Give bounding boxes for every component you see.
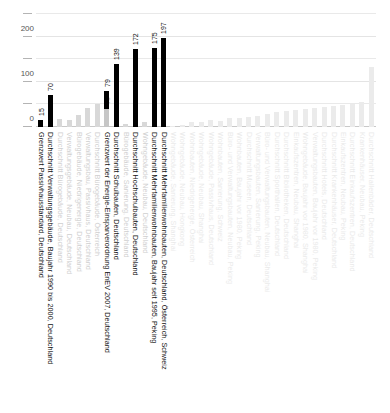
bar-slot[interactable]: [67, 14, 72, 127]
category-label: Verwaltungsbau, Passivhaus, Deutschland: [84, 132, 91, 270]
category-label: Durchschnitt Museen, Deutschland: [245, 132, 252, 245]
category-label: Wohngebäude, Neubau, Shanghai: [198, 132, 205, 244]
tick-mark: [23, 58, 32, 59]
bar-slot[interactable]: [57, 14, 62, 127]
bar[interactable]: [123, 124, 128, 127]
bar-slot[interactable]: [170, 14, 175, 127]
bar-slot[interactable]: [208, 14, 213, 127]
bar-slot[interactable]: [265, 14, 270, 127]
bar[interactable]: [284, 111, 289, 127]
bar-slot[interactable]: 4079: [104, 14, 109, 127]
bar-slot[interactable]: 139: [114, 14, 119, 127]
category-label: Durchschnitt Verwaltungsgebäude, Baujahr…: [47, 132, 54, 364]
category-label: Krankenhäuser, Neubau, Peking: [358, 132, 365, 237]
bar[interactable]: [180, 125, 185, 127]
bar-slot[interactable]: 70: [48, 14, 53, 127]
bar-slot[interactable]: 175: [152, 14, 157, 127]
category-label: Wohnbauten, Baujahr vor 1980, Peking: [235, 132, 242, 259]
category-label: Wohngebäude, Sanierung, Shanghai: [169, 132, 176, 251]
bar[interactable]: [170, 126, 175, 127]
bar[interactable]: [152, 48, 157, 127]
bar[interactable]: [76, 115, 81, 127]
category-label: Durchschnitt Bibliotheken, Deutschland: [283, 132, 290, 259]
category-label: Wohngebäude, Neubau, Deutschland: [141, 132, 148, 253]
bar[interactable]: [312, 108, 317, 127]
bar-slot[interactable]: [284, 14, 289, 127]
bar-slot[interactable]: [293, 14, 298, 127]
category-label: Wohngebäude, Passivhaus, Deutschland: [207, 132, 214, 265]
bar[interactable]: [142, 122, 147, 127]
bar[interactable]: [67, 120, 72, 127]
category-label: Durchschnitt Hallenbäder, Deutschland: [368, 132, 375, 258]
bar[interactable]: [322, 107, 327, 127]
bar[interactable]: [85, 108, 90, 127]
bar-slot[interactable]: [123, 14, 128, 127]
bar-slot[interactable]: [246, 14, 251, 127]
bar-segment-lower[interactable]: [104, 109, 109, 127]
bar-slot[interactable]: [227, 14, 232, 127]
bar[interactable]: [255, 116, 260, 127]
bar[interactable]: [340, 105, 345, 127]
category-label: Wohnbauten, Sanierung, Schweiz: [217, 132, 224, 242]
bar-slot[interactable]: [369, 14, 374, 127]
bar[interactable]: [161, 38, 166, 127]
category-label: Wohngebäude, Baujahr vor 1980, Shanghai: [302, 132, 309, 274]
bar-slot[interactable]: [303, 14, 308, 127]
category-label: Durchschnitt Einkaufszentren, Deutschlan…: [349, 132, 356, 271]
bar[interactable]: [57, 119, 62, 127]
bar[interactable]: [227, 118, 232, 127]
tick-mark: [23, 13, 32, 14]
bar[interactable]: [38, 120, 43, 127]
bar-chart: 0100200 15704079139172175197 Grenzwert P…: [0, 0, 390, 413]
bar-value-label: 172: [132, 34, 139, 46]
bar[interactable]: [303, 109, 308, 127]
bar-slot[interactable]: [340, 14, 345, 127]
bar[interactable]: [189, 122, 194, 127]
bar-slot[interactable]: [350, 14, 355, 127]
bar[interactable]: [133, 49, 138, 127]
bar-slot[interactable]: [199, 14, 204, 127]
bar[interactable]: [331, 106, 336, 127]
bar[interactable]: [199, 122, 204, 127]
bar[interactable]: [293, 110, 298, 127]
y-axis-tick-label: 0: [30, 115, 34, 123]
y-axis-tick-label: 200: [21, 25, 34, 33]
bar-slot[interactable]: [359, 14, 364, 127]
bar-slot[interactable]: [322, 14, 327, 127]
bar[interactable]: [359, 102, 364, 127]
bar[interactable]: [114, 64, 119, 127]
bar-slot[interactable]: [76, 14, 81, 127]
y-axis-ticks: 0100200: [0, 14, 34, 127]
bar[interactable]: [265, 114, 270, 127]
bar-slot[interactable]: [180, 14, 185, 127]
bar-slot[interactable]: [189, 14, 194, 127]
bar-slot[interactable]: 15: [38, 14, 43, 127]
bar-slot[interactable]: 172: [133, 14, 138, 127]
bar-slot[interactable]: [237, 14, 242, 127]
category-label: Verwaltungsbauten, Baujahr vor 1980, Pek…: [311, 132, 318, 280]
bar-slot[interactable]: [274, 14, 279, 127]
bar-slot[interactable]: [312, 14, 317, 127]
category-label: Durchschnitt Mehrfamilienwohnbauten, Deu…: [160, 132, 167, 370]
bar-value-label: 175: [151, 32, 158, 44]
bar[interactable]: [246, 117, 251, 127]
bar-slot[interactable]: 197: [161, 14, 166, 127]
tick-mark: [23, 103, 32, 104]
bar-slot[interactable]: [95, 14, 100, 127]
bar[interactable]: [350, 104, 355, 128]
category-label: Durchschnitt Hotels, Deutschland: [320, 132, 327, 240]
bar[interactable]: [274, 112, 279, 127]
bar-slot[interactable]: [331, 14, 336, 127]
bar-slot[interactable]: [255, 14, 260, 127]
bar-slot[interactable]: [85, 14, 90, 127]
bar[interactable]: [48, 95, 53, 127]
category-label: Grenzwert der Energie-Einsparverordnung …: [103, 132, 110, 353]
bar[interactable]: [218, 121, 223, 127]
bar-slot[interactable]: [142, 14, 147, 127]
bar-slot[interactable]: [218, 14, 223, 127]
bar[interactable]: [237, 118, 242, 127]
bar[interactable]: [208, 120, 213, 127]
bar[interactable]: [95, 104, 100, 127]
category-label: Grenzwert Passivhausstandard, Deutschlan…: [37, 132, 44, 278]
bar[interactable]: [369, 67, 374, 127]
